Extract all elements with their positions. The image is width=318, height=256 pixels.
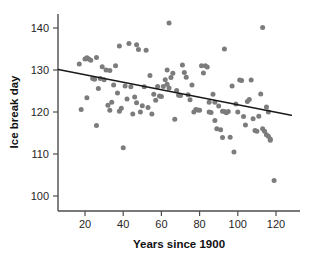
data-point [226, 109, 231, 114]
data-point [163, 77, 168, 82]
x-tick-label: 40 [117, 218, 129, 230]
data-point [258, 91, 263, 96]
data-point [256, 114, 261, 119]
data-point [100, 64, 105, 69]
data-point [79, 107, 84, 112]
data-point [268, 138, 273, 143]
y-axis-title: Ice break day [8, 75, 20, 148]
data-point [260, 25, 265, 30]
data-point [201, 70, 206, 75]
y-tick-label: 130 [31, 64, 49, 76]
data-point [144, 48, 149, 53]
data-point [117, 44, 122, 49]
data-point [107, 68, 112, 73]
data-point [188, 97, 193, 102]
data-point [138, 110, 143, 115]
data-point [228, 135, 233, 140]
data-point [94, 55, 99, 60]
data-point [272, 178, 277, 183]
data-point [130, 112, 135, 117]
trend-line [58, 70, 291, 116]
data-point [123, 83, 128, 88]
data-point [153, 98, 158, 103]
data-point [126, 41, 131, 46]
data-point [140, 103, 145, 108]
data-points-group [77, 20, 277, 183]
data-point [212, 118, 217, 123]
data-point [197, 108, 202, 113]
x-tick-labels: 20406080100120 [79, 218, 285, 230]
data-point [182, 70, 187, 75]
data-point [209, 110, 214, 115]
x-axis-title: Years since 1900 [133, 238, 225, 250]
data-point [172, 117, 177, 122]
data-point [249, 78, 254, 83]
x-tick-label: 80 [193, 218, 205, 230]
data-point [247, 97, 252, 102]
data-point [222, 47, 227, 52]
data-point [251, 116, 256, 121]
data-point [111, 83, 116, 88]
data-point [184, 75, 189, 80]
data-point [113, 63, 118, 68]
data-point [128, 84, 133, 89]
data-point [235, 110, 240, 115]
y-axis-ticks [53, 28, 58, 196]
data-point [231, 149, 236, 154]
data-point [230, 83, 235, 88]
y-tick-labels: 100110120130140 [31, 22, 49, 202]
data-point [149, 112, 154, 117]
data-point [241, 114, 246, 119]
data-point [210, 92, 215, 97]
data-point [159, 94, 164, 99]
data-point [88, 58, 93, 63]
data-point [180, 62, 185, 67]
y-tick-label: 110 [31, 148, 49, 160]
data-point [134, 100, 139, 105]
x-tick-label: 60 [155, 218, 167, 230]
data-point [205, 65, 210, 70]
chart-svg: 100110120130140 20406080100120 Years sin… [0, 0, 318, 256]
data-point [220, 135, 225, 140]
data-point [165, 68, 170, 73]
data-point [77, 62, 82, 67]
data-point [151, 92, 156, 97]
data-point [216, 104, 221, 109]
data-point [170, 71, 175, 76]
data-point [121, 145, 126, 150]
y-tick-label: 140 [31, 22, 49, 34]
x-tick-label: 20 [79, 218, 91, 230]
data-point [132, 94, 137, 99]
y-tick-label: 120 [31, 106, 49, 118]
data-point [207, 100, 212, 105]
x-tick-label: 100 [229, 218, 247, 230]
data-point [109, 100, 114, 105]
data-point [189, 83, 194, 88]
data-point [167, 20, 172, 25]
data-point [107, 108, 112, 113]
data-point [96, 86, 101, 91]
y-tick-label: 100 [31, 190, 49, 202]
data-point [264, 104, 269, 109]
data-point [136, 47, 141, 52]
x-tick-label: 120 [267, 218, 285, 230]
data-point [119, 106, 124, 111]
data-point [115, 91, 120, 96]
data-point [254, 129, 259, 134]
data-point [147, 73, 152, 78]
data-point [84, 95, 89, 100]
scatter-chart: 100110120130140 20406080100120 Years sin… [0, 0, 318, 256]
data-point [239, 78, 244, 83]
x-axis-ticks [85, 211, 276, 216]
data-point [134, 42, 139, 47]
data-point [94, 123, 99, 128]
data-point [243, 123, 248, 128]
data-point [218, 127, 223, 132]
data-point [125, 96, 130, 101]
data-point [146, 105, 151, 110]
data-point [167, 86, 172, 91]
